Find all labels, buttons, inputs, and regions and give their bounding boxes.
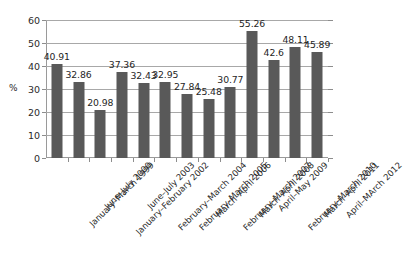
bar-value-label: 20.98 xyxy=(87,97,113,108)
bar-slot: 32.43 xyxy=(133,20,155,158)
y-tick-mark-right xyxy=(328,20,333,21)
y-axis-title: % xyxy=(9,83,18,93)
bar[interactable] xyxy=(73,82,84,158)
x-tick-mark xyxy=(328,158,329,162)
bar[interactable] xyxy=(290,47,301,158)
y-tick-mark-right xyxy=(328,89,333,90)
y-tick-label: 30 xyxy=(28,84,40,95)
bar-value-label: 40.91 xyxy=(44,51,70,62)
y-tick-mark-right xyxy=(328,135,333,136)
bar-value-label: 32.86 xyxy=(65,69,91,80)
bar-value-label: 42.6 xyxy=(264,47,284,58)
y-tick-label: 50 xyxy=(28,38,40,49)
bar-value-label: 37.36 xyxy=(109,59,135,70)
y-axis-ticks: 6050403020100 xyxy=(0,20,40,158)
bar[interactable] xyxy=(247,31,258,158)
bar[interactable] xyxy=(181,94,192,158)
bar-slot: 37.36 xyxy=(111,20,133,158)
y-tick-label: 10 xyxy=(28,130,40,141)
x-axis-labels: January–March 1999June–July 2000January–… xyxy=(46,160,328,276)
bar-value-label: 32.95 xyxy=(152,69,178,80)
bar[interactable] xyxy=(225,87,236,158)
bar[interactable] xyxy=(203,99,214,158)
bar-slot: 30.77 xyxy=(220,20,242,158)
y-tick-mark-right xyxy=(328,66,333,67)
bar-slot: 27.84 xyxy=(176,20,198,158)
bar-slot: 32.95 xyxy=(154,20,176,158)
y-tick-label: 60 xyxy=(28,15,40,26)
bar-value-label: 55.26 xyxy=(239,18,265,29)
bar[interactable] xyxy=(116,72,127,158)
y-tick-label: 0 xyxy=(34,153,40,164)
bar[interactable] xyxy=(268,60,279,158)
bar-slot: 48.11 xyxy=(285,20,307,158)
bar-slot: 45.89 xyxy=(306,20,328,158)
bar[interactable] xyxy=(160,82,171,158)
bar-slot: 25.48 xyxy=(198,20,220,158)
bar[interactable] xyxy=(312,52,323,158)
y-tick-label: 20 xyxy=(28,107,40,118)
gridline xyxy=(46,158,328,159)
bar-slot: 42.6 xyxy=(263,20,285,158)
y-tick-mark-left xyxy=(42,158,46,159)
bar-value-label: 30.77 xyxy=(217,74,243,85)
y-tick-mark-right xyxy=(328,112,333,113)
y-tick-label: 40 xyxy=(28,61,40,72)
bar[interactable] xyxy=(138,83,149,158)
bar-value-label: 25.48 xyxy=(196,86,222,97)
bar[interactable] xyxy=(51,64,62,158)
bar-slot: 20.98 xyxy=(89,20,111,158)
plot-area: 40.9132.8620.9837.3632.4332.9527.8425.48… xyxy=(46,20,328,158)
bar-slot: 55.26 xyxy=(241,20,263,158)
bar[interactable] xyxy=(95,110,106,158)
bar-slot: 40.91 xyxy=(46,20,68,158)
bar-slot: 32.86 xyxy=(68,20,90,158)
bars-layer: 40.9132.8620.9837.3632.4332.9527.8425.48… xyxy=(46,20,328,158)
bar-value-label: 45.89 xyxy=(304,39,330,50)
